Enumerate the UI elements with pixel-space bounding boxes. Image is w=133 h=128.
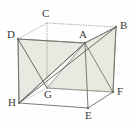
vertex-dot-a — [84, 42, 86, 44]
vertex-label-d: D — [7, 29, 15, 40]
edge-d-c — [18, 23, 47, 39]
vertex-label-a: A — [79, 29, 87, 40]
cube-diagram-figure: A B C D E F G H — [0, 0, 133, 128]
vertex-dot-d — [17, 38, 19, 40]
edge-h-e — [19, 103, 88, 108]
vertex-label-h: H — [8, 97, 16, 108]
vertex-label-f: F — [117, 86, 123, 97]
vertex-label-b: B — [120, 20, 127, 31]
vertex-dot-f — [112, 91, 114, 93]
vertex-label-e: E — [85, 110, 92, 121]
edge-c-b — [47, 23, 116, 27]
cube-svg-canvas — [0, 0, 133, 128]
vertex-dot-h — [18, 102, 20, 104]
vertex-label-c: C — [42, 8, 49, 19]
vertex-dot-b — [115, 26, 117, 28]
vertex-label-g: G — [44, 89, 52, 100]
edge-e-f — [88, 92, 113, 108]
